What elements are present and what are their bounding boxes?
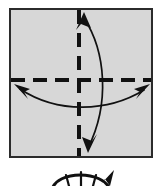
origami-diagram — [0, 0, 161, 186]
next-step-partial — [52, 170, 114, 186]
diagram-canvas — [0, 0, 161, 186]
